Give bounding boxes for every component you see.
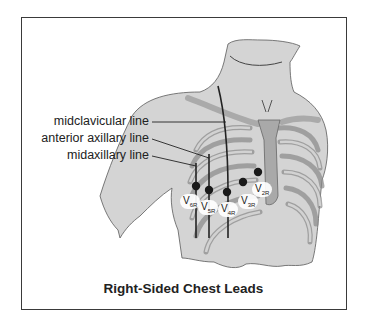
label-midaxillary-line: midaxillary line bbox=[67, 148, 149, 162]
electrode-v5r bbox=[205, 186, 213, 194]
electrode-v2r bbox=[254, 168, 262, 176]
torso-illustration bbox=[0, 0, 367, 327]
label-midclavicular-line: midclavicular line bbox=[54, 114, 149, 128]
label-anterior-axillary-line: anterior axillary line bbox=[41, 131, 149, 145]
lead-v2r: V2R bbox=[252, 182, 272, 197]
diagram-caption: Right-Sided Chest Leads bbox=[0, 281, 367, 296]
electrode-v4r bbox=[223, 188, 231, 196]
electrode-v3r bbox=[239, 178, 247, 186]
electrode-v6r bbox=[192, 182, 200, 190]
lead-v5r: V5R bbox=[198, 200, 218, 215]
lead-v4r: V4R bbox=[218, 202, 238, 217]
left-clavicle bbox=[282, 119, 318, 122]
